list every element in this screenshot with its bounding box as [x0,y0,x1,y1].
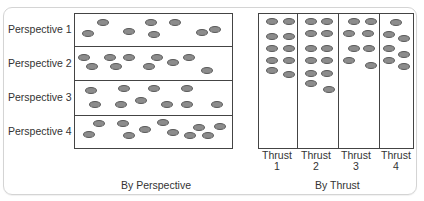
item-dot [167,59,179,66]
item-dot [117,120,129,127]
item-dot [78,54,90,61]
thrust-label-number: 3 [336,161,376,172]
item-dot [321,57,333,64]
item-dot [169,19,181,26]
item-dot [148,85,160,92]
item-dot [321,70,333,77]
perspective-2-label: Perspective 2 [8,57,72,69]
item-dot [398,35,410,42]
item-dot [151,54,163,61]
thrust-label-number: 2 [296,161,336,172]
row-divider [75,80,232,81]
thrust-label-number: 4 [376,161,416,172]
item-dot [83,131,95,138]
item-dot [181,101,193,108]
item-dot [390,19,402,26]
item-dot [148,31,160,38]
item-dot [383,31,395,38]
by-perspective-caption: By Perspective [121,179,191,191]
item-dot [123,28,135,35]
item-dot [167,129,179,136]
item-dot [363,45,375,52]
item-dot [266,18,278,25]
item-dot [398,63,410,70]
item-dot [283,33,295,40]
perspective-grid [74,13,233,149]
item-dot [184,132,196,139]
item-dot [161,101,173,108]
item-dot [266,33,278,40]
item-dot [93,120,105,127]
row-divider [75,115,232,116]
item-dot [321,30,333,37]
perspective-4-label: Perspective 4 [8,125,72,137]
item-dot [118,85,130,92]
perspective-3-label: Perspective 3 [8,91,72,103]
item-dot [283,45,295,52]
item-dot [110,63,122,70]
item-dot [181,85,193,92]
item-dot [305,70,317,77]
item-dot [89,101,101,108]
column-divider [379,14,380,148]
row-divider [75,46,232,47]
item-dot [321,18,333,25]
thrust-label-number: 1 [257,161,297,172]
item-dot [398,51,410,58]
item-dot [193,124,205,131]
item-dot [85,87,97,94]
item-dot [305,80,317,87]
item-dot [97,19,109,26]
item-dot [201,67,213,74]
item-dot [145,19,157,26]
item-dot [343,57,355,64]
item-dot [82,30,94,37]
item-dot [383,45,395,52]
column-divider [297,14,298,148]
column-divider [338,14,339,148]
item-dot [383,57,395,64]
item-dot [283,57,295,64]
item-dot [305,18,317,25]
thrust-grid [258,13,414,149]
item-dot [123,54,135,61]
item-dot [123,132,135,139]
item-dot [135,97,147,104]
thrust-1-label: Thrust 1 [257,150,297,172]
item-dot [183,54,195,61]
item-dot [321,45,333,52]
perspective-1-label: Perspective 1 [8,23,72,35]
item-dot [157,119,169,126]
item-dot [305,30,317,37]
thrust-4-label: Thrust 4 [376,150,416,172]
by-thrust-caption: By Thrust [315,179,360,191]
item-dot [323,86,335,93]
item-dot [266,67,278,74]
item-dot [305,45,317,52]
item-dot [266,57,278,64]
item-dot [362,30,374,37]
thrust-2-label: Thrust 2 [296,150,336,172]
item-dot [104,54,116,61]
item-dot [283,18,295,25]
item-dot [283,71,295,78]
item-dot [202,132,214,139]
item-dot [214,123,226,130]
item-dot [209,26,221,33]
item-dot [365,18,377,25]
thrust-3-label: Thrust 3 [336,150,376,172]
item-dot [211,101,223,108]
item-dot [86,63,98,70]
item-dot [348,45,360,52]
item-dot [365,62,377,69]
item-dot [196,29,208,36]
item-dot [266,45,278,52]
item-dot [115,101,127,108]
item-dot [343,30,355,37]
item-dot [143,63,155,70]
item-dot [348,18,360,25]
item-dot [305,57,317,64]
item-dot [139,126,151,133]
